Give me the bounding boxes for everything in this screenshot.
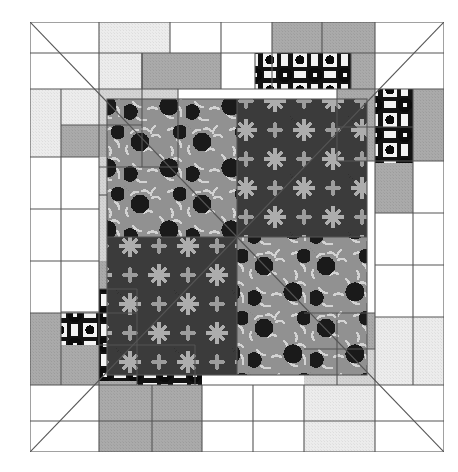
ring2-bl-mid-b [99, 385, 152, 421]
strip-top-1-pale [99, 22, 170, 53]
strip-bottom-5-pale [304, 421, 375, 452]
ring2-bl-mid-d [152, 385, 202, 421]
strip-top-3-white [221, 22, 272, 53]
ring3-top-mid [142, 53, 221, 89]
ring2-br-pale-a [304, 385, 375, 421]
quilt-block-figure: Pieced Quilt Block Diagram Pinwheel with… [0, 0, 458, 472]
strip-bottom-4-white [253, 421, 304, 452]
strip-left-1-pale [30, 89, 61, 157]
strip-left-4-white [30, 261, 61, 313]
strip-top-4-midgray [272, 22, 322, 53]
strip-bottom-2-midgray [152, 421, 202, 452]
ring2-br-white-d [202, 385, 253, 421]
strip-right-3-white [413, 213, 444, 265]
ring2-br-white-b [375, 265, 413, 317]
strip-left-5-midgray [30, 313, 61, 385]
quilt-block-body [30, 22, 444, 452]
strip-left-3-white [30, 209, 61, 261]
strip-top-5-midgray [322, 22, 375, 53]
bwdot-corner-cut-bl [61, 345, 99, 385]
ring2-br-white-a [253, 385, 304, 421]
bwdot-corner-cut-tr2 [351, 53, 375, 89]
bwdot-right-col [375, 89, 413, 163]
ring2-tl-pale-a [99, 53, 142, 89]
strip-right-4-white [413, 265, 444, 317]
strip-left-2-white [30, 157, 61, 209]
ring2-br-pale-b [375, 317, 413, 385]
strip-right-2-white [413, 161, 444, 213]
strip-bottom-3-white [202, 421, 253, 452]
quilt-block-canvas [0, 0, 458, 472]
strip-right-1-midgray [413, 89, 444, 161]
ring2-tl-mid-c [61, 125, 99, 157]
ring2-br-mid-a [375, 161, 413, 213]
bwdot-piece-top [255, 53, 351, 89]
ring2-left-white-a [61, 157, 99, 209]
ring2-left-white-b [61, 209, 99, 261]
ring2-br-white-c [375, 213, 413, 265]
strip-right-5-pale [413, 317, 444, 385]
ring2-bl-white [61, 261, 99, 313]
strip-bottom-1-midgray [99, 421, 152, 452]
strip-top-2-white [170, 22, 221, 53]
